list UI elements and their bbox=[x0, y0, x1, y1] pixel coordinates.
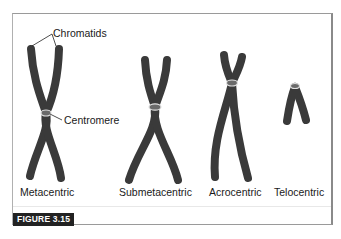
submetacentric-centromere-icon bbox=[149, 104, 161, 110]
acrocentric-chromosome-icon bbox=[215, 55, 248, 178]
metacentric-label: Metacentric bbox=[20, 186, 74, 198]
chromatids-label: Chromatids bbox=[53, 27, 107, 39]
metacentric-centromere-icon bbox=[41, 110, 51, 116]
submetacentric-chromosome-icon bbox=[129, 60, 178, 180]
acrocentric-label: Acrocentric bbox=[209, 186, 262, 198]
acrocentric-centromere-icon bbox=[227, 80, 238, 86]
figure-caption: FIGURE 3.15 bbox=[13, 213, 74, 226]
submetacentric-label: Submetacentric bbox=[119, 186, 192, 198]
telocentric-chromosome-icon bbox=[287, 87, 306, 121]
telocentric-centromere-icon bbox=[291, 84, 300, 89]
centromere-leader-line bbox=[50, 114, 62, 120]
chromosome-diagram bbox=[0, 0, 341, 239]
centromere-label: Centromere bbox=[64, 114, 119, 126]
telocentric-label: Telocentric bbox=[274, 186, 324, 198]
